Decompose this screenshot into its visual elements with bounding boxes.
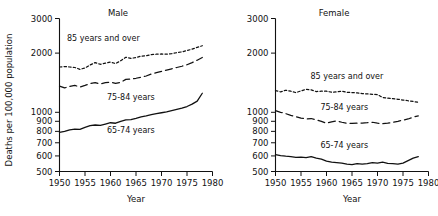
y-tick-label: 500 [36,167,52,177]
x-tick-label: 1950 [265,178,287,188]
y-tick-label: 1000 [247,107,269,117]
series-label-85-years-and-over: 85 years and over [67,34,140,43]
y-tick-label: 600 [36,151,52,161]
x-tick-label: 1955 [290,178,312,188]
x-tick-label: 1980 [418,178,438,188]
y-tick-label: 800 [36,126,52,136]
x-axis-title: Year [126,194,146,204]
panel-title: Female [319,8,350,18]
y-tick-label: 1000 [31,107,53,117]
x-tick-label: 1975 [392,178,414,188]
x-tick-label: 1980 [202,178,224,188]
y-tick-label: 700 [36,138,52,148]
shared-axis-labels: Deaths per 100,000 population [4,34,14,167]
x-tick-label: 1965 [125,178,147,188]
y-tick-label: 900 [252,116,268,126]
y-tick-label: 2000 [31,48,53,58]
x-tick-label: 1975 [176,178,198,188]
y-tick-label: 600 [252,151,268,161]
x-axis-title: Year [342,194,362,204]
y-tick-label: 500 [252,167,268,177]
chart-svg: 5006007008009001000200030001950195519601… [0,0,438,216]
y-axis-title: Deaths per 100,000 population [4,34,14,167]
y-tick-label: 800 [252,126,268,136]
x-tick-label: 1970 [151,178,173,188]
y-tick-label: 3000 [247,14,269,24]
x-tick-label: 1950 [49,178,71,188]
series-label-75-84-years: 75-84 years [107,93,155,102]
panel-title: Male [108,8,128,18]
series-label-65-74-years: 65-74 years [320,141,368,150]
x-tick-label: 1960 [100,178,122,188]
y-tick-label: 2000 [247,48,269,58]
chart-figure: 5006007008009001000200030001950195519601… [0,0,438,216]
series-label-75-84-years: 75-84 years [320,103,368,112]
x-tick-label: 1970 [367,178,389,188]
y-tick-label: 900 [36,116,52,126]
x-tick-label: 1965 [341,178,363,188]
x-tick-label: 1955 [74,178,96,188]
y-tick-label: 700 [252,138,268,148]
series-label-65-74-years: 65-74 years [107,126,155,135]
x-tick-label: 1960 [316,178,338,188]
y-tick-label: 3000 [31,14,53,24]
series-label-85-years-and-over: 85 years and over [311,72,384,81]
